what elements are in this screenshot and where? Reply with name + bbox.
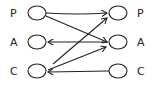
- right-label-a: A: [137, 36, 145, 49]
- node-right-a: [109, 35, 127, 49]
- left-label-a: A: [10, 36, 18, 49]
- node-right-p: [109, 6, 127, 20]
- bipartite-diagram: P A C P A C: [0, 0, 160, 94]
- node-right-c: [109, 64, 127, 78]
- left-label-c: C: [10, 65, 18, 78]
- edge-lc-ra: [48, 47, 106, 70]
- node-left-p: [28, 6, 46, 20]
- left-label-p: P: [10, 7, 17, 20]
- right-label-p: P: [137, 7, 144, 20]
- node-left-a: [28, 35, 46, 49]
- edge-lp-ra: [46, 16, 107, 42]
- edge-lp-rp: [46, 13, 107, 14]
- node-left-c: [28, 64, 46, 78]
- edge-rc-lc: [48, 71, 109, 72]
- right-label-c: C: [137, 65, 145, 78]
